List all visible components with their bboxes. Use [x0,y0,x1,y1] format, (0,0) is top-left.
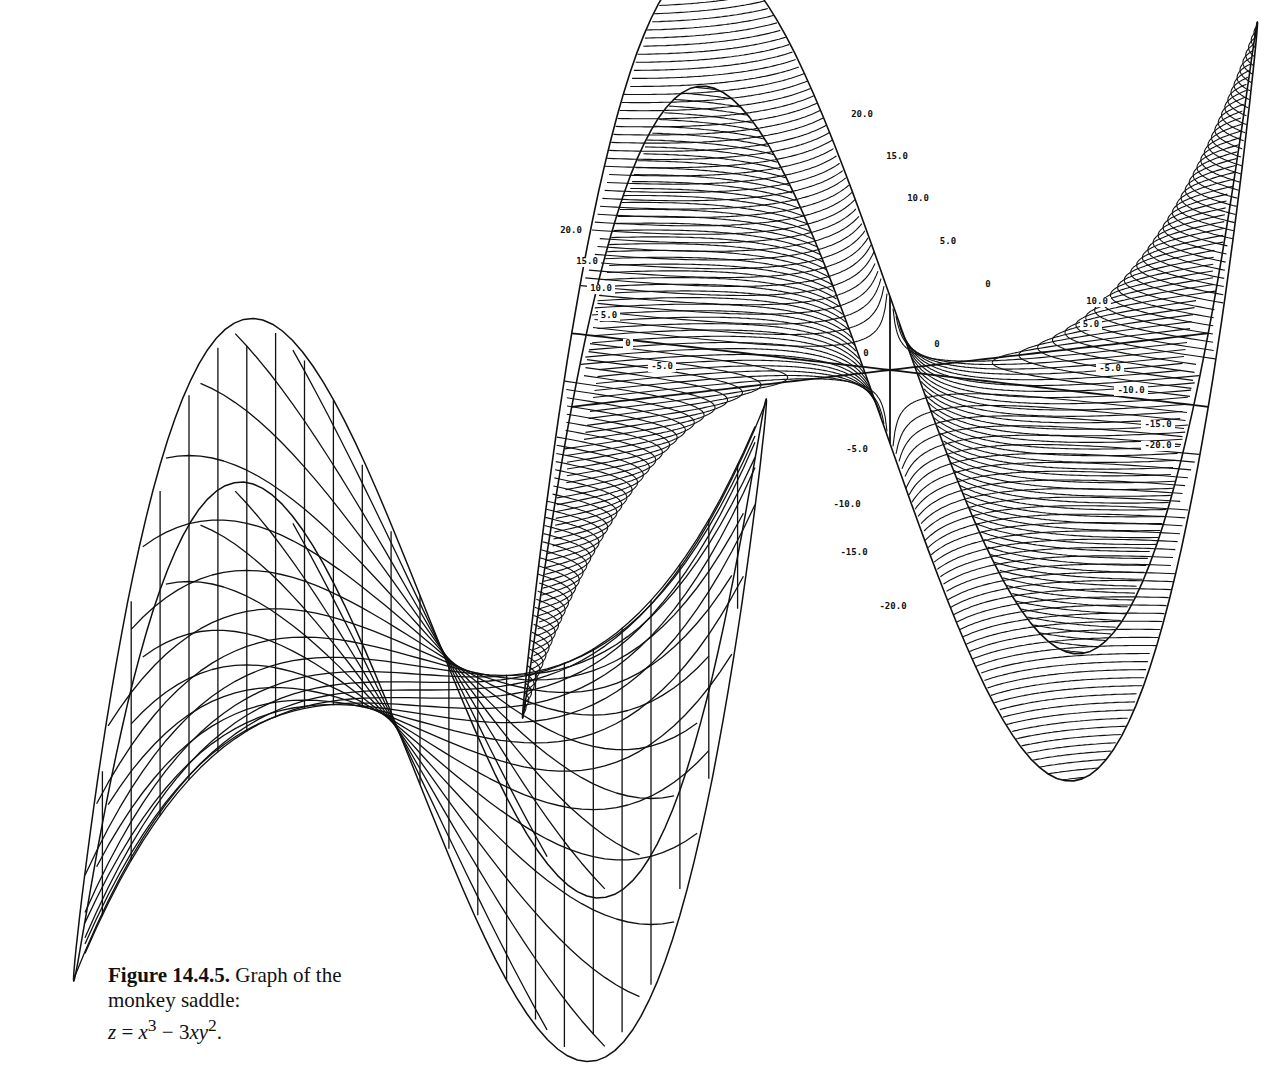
contour-label-right: -15.0 [1144,419,1171,429]
contour-label-right: -5.0 [1099,363,1121,373]
contour-label-right: 5.0 [1083,319,1099,329]
contour-label-top: 20.0 [851,109,873,119]
contour-label-top: 10.0 [907,193,929,203]
contour-label-bottom: -10.0 [833,499,860,509]
contour-label-right: -10.0 [1117,385,1144,395]
contour-label-center: 0 [985,279,990,289]
contour-label-left: 15.0 [576,256,598,266]
contour-label-left: 20.0 [560,225,582,235]
contour-label-left: -5.0 [651,361,673,371]
wireframe-surface-plot [74,318,767,1061]
contour-label-left: 0 [625,338,630,348]
contour-label-top: 15.0 [886,151,908,161]
equation: z = x3 − 3xy2. [108,1020,222,1044]
contour-label-center: 0 [863,348,868,358]
contour-label-bottom: -20.0 [879,601,906,611]
figure-number: Figure 14.4.5. [108,963,230,987]
figure-canvas: 20.015.010.05.00-5.0-10.0-15.0-20.020.01… [0,0,1266,1091]
contour-label-top: 5.0 [940,236,956,246]
contour-label-left: 5.0 [601,310,617,320]
contour-label-right: 10.0 [1086,296,1108,306]
contour-label-bottom: -15.0 [840,547,867,557]
contour-label-center: 0 [934,339,939,349]
figure-caption: Figure 14.4.5. Graph of the monkey saddl… [108,963,348,1045]
contour-label-bottom: -5.0 [846,444,868,454]
contour-label-left: 10.0 [590,283,612,293]
contour-label-right: -20.0 [1144,440,1171,450]
